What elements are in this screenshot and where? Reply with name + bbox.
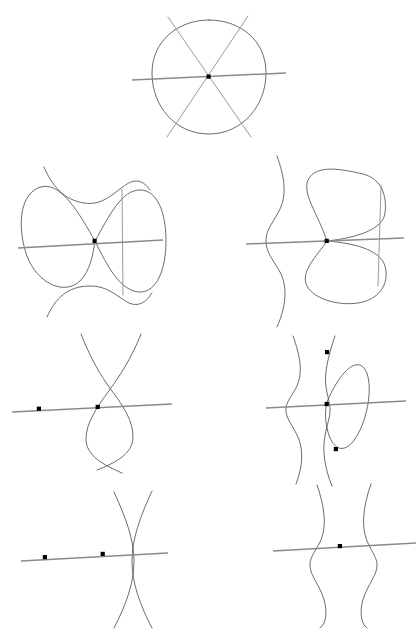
horizontal-line — [18, 240, 163, 248]
s-wave-lower — [47, 286, 152, 317]
figure-5-wave-with-lens-loop-and-two-free-points — [266, 336, 406, 486]
figure-7-two-disjoint-waves-with-line-and-point — [273, 484, 416, 628]
figure-eight-left-lobe — [21, 186, 95, 287]
lower-free-point-marker — [334, 447, 338, 451]
horizontal-line — [12, 404, 172, 412]
self-crossing-loop-lower — [305, 241, 386, 304]
triple-point-marker — [207, 75, 211, 79]
s-wave-upper — [44, 167, 150, 203]
free-point-marker — [43, 555, 47, 559]
figure-1-circle-with-three-concurrent-lines — [132, 16, 286, 137]
upper-free-point-marker — [325, 350, 329, 354]
self-crossing-loop-upper — [307, 169, 386, 241]
detached-s-wave — [266, 156, 285, 327]
lens-arc-right — [132, 491, 152, 628]
figure-2-figure-eight-with-wave-and-line — [18, 167, 166, 317]
right-s-wave — [361, 484, 377, 628]
horizontal-line — [273, 543, 416, 551]
detached-s-wave — [286, 336, 302, 484]
figure-3-self-crossing-loop-with-diagonal-and-wave — [246, 156, 404, 327]
node-point-marker — [338, 544, 342, 548]
figure-6-lens-pair-with-line-and-two-points — [21, 491, 168, 628]
left-s-wave — [310, 485, 326, 628]
node-point-marker — [325, 402, 329, 406]
curve-diagram-canvas — [0, 0, 419, 630]
lens-arc-left — [114, 492, 134, 628]
node-point-marker — [96, 405, 100, 409]
node-point-marker — [93, 239, 97, 243]
s-wave-ascending — [86, 334, 141, 473]
diagonal-line — [378, 185, 381, 286]
free-point-marker — [37, 407, 41, 411]
node-point-marker — [325, 239, 329, 243]
figure-4-two-waves-crossing-with-line-and-free-point — [12, 334, 172, 473]
node-point-marker — [101, 552, 105, 556]
lens-loop — [326, 365, 370, 449]
figure-sheet: Curve Singularity Configurations — [0, 0, 419, 630]
